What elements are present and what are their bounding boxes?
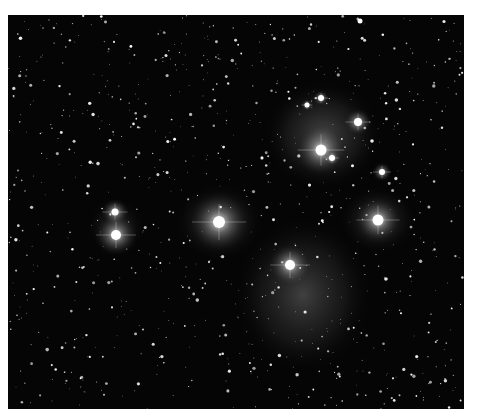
pleiades-photo — [8, 15, 464, 409]
bright-star — [268, 243, 312, 287]
bright-star — [313, 90, 329, 106]
bright-star — [324, 150, 340, 166]
bright-star — [301, 99, 313, 111]
bright-star — [344, 108, 372, 136]
bright-star — [94, 213, 138, 257]
star-field — [8, 15, 464, 409]
bright-star — [354, 196, 402, 244]
bright-star — [372, 162, 392, 182]
bright-star — [358, 19, 363, 24]
bright-star — [295, 124, 347, 176]
bright-star — [189, 192, 249, 252]
